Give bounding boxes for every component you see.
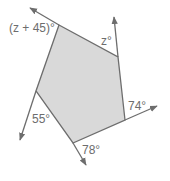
angle-label-a: (z + 45)° [9, 22, 55, 34]
angle-label-e: 55° [32, 113, 50, 125]
angle-label-c: 74° [128, 100, 146, 112]
angle-label-b: z° [101, 35, 112, 47]
ray-b [114, 17, 118, 57]
angle-label-d: 78° [82, 144, 100, 156]
